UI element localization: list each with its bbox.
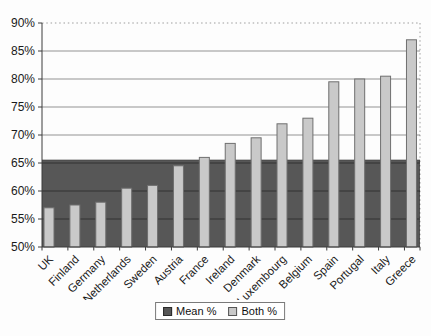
legend-label-mean: Mean % [176, 305, 216, 317]
y-tick-label: 60% [11, 184, 35, 198]
bar-austria [173, 166, 183, 247]
legend-item-both: Both % [228, 305, 276, 317]
legend-item-mean: Mean % [163, 305, 216, 317]
y-tick-label: 75% [11, 100, 35, 114]
both-percent-swatch [228, 307, 237, 316]
bar-italy [381, 76, 391, 247]
y-tick-label: 80% [11, 72, 35, 86]
legend: Mean % Both % [155, 302, 285, 320]
y-tick-label: 65% [11, 156, 35, 170]
bar-chart: 50%55%60%65%70%75%80%85%90%UKFinlandGerm… [0, 0, 431, 300]
x-label-france: France [177, 253, 211, 287]
bar-denmark [251, 138, 261, 247]
y-tick-label: 70% [11, 128, 35, 142]
bar-belgium [303, 118, 313, 247]
bar-finland [70, 205, 80, 247]
bar-portugal [355, 79, 365, 247]
bar-france [199, 157, 209, 247]
bar-netherlands [122, 188, 132, 247]
y-tick-label: 85% [11, 44, 35, 58]
y-tick-label: 55% [11, 212, 35, 226]
bar-germany [96, 202, 106, 247]
chart-page: 50%55%60%65%70%75%80%85%90%UKFinlandGerm… [0, 0, 431, 336]
bar-spain [329, 82, 339, 247]
bar-sweden [148, 185, 158, 247]
y-tick-label: 90% [11, 16, 35, 30]
bar-luxembourg [277, 124, 287, 247]
x-label-uk: UK [36, 253, 56, 273]
legend-label-both: Both % [241, 305, 276, 317]
y-tick-label: 50% [11, 240, 35, 254]
bar-uk [44, 208, 54, 247]
mean-percent-swatch [163, 307, 172, 316]
bar-ireland [225, 143, 235, 247]
bar-greece [406, 40, 416, 247]
